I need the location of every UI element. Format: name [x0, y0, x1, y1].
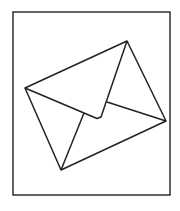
envelope-figure [0, 0, 180, 211]
frame-border [13, 12, 170, 195]
envelope-icon [25, 41, 166, 170]
envelope-drawing [0, 0, 180, 211]
envelope-flap [25, 41, 127, 119]
envelope-outline [25, 41, 166, 170]
envelope-right-fold [107, 102, 166, 121]
